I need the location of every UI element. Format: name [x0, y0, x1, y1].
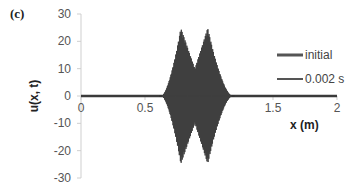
x-tick-label: 1.5 [265, 101, 282, 115]
y-tick-label: 30 [58, 7, 72, 21]
y-tick-label: -30 [54, 171, 72, 185]
series-0002s [159, 29, 235, 163]
y-axis-title: u(x, t) [27, 80, 41, 113]
y-tick-label: 20 [58, 34, 72, 48]
plot-area [81, 29, 337, 163]
x-tick-label: 0 [78, 101, 85, 115]
x-axis-title: x (m) [290, 118, 319, 132]
legend-label-0002s: 0.002 s [305, 72, 344, 86]
y-tick-label: -20 [54, 144, 72, 158]
x-tick-label: 2 [334, 101, 341, 115]
y-tick-label: 10 [58, 62, 72, 76]
x-tick-label: 0.5 [137, 101, 154, 115]
chart-canvas: 3020100-10-20-30 00.511.52 u(x, t) x (m)… [0, 0, 356, 195]
legend-label-initial: initial [305, 48, 332, 62]
y-tick-label: -10 [54, 116, 72, 130]
y-axis-ticks: 3020100-10-20-30 [54, 7, 81, 185]
legend: initial 0.002 s [277, 48, 344, 86]
y-tick-label: 0 [64, 89, 71, 103]
